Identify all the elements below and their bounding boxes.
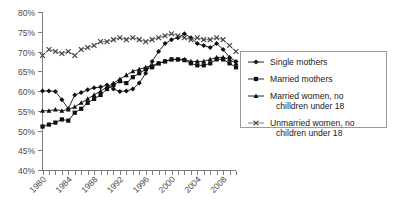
y-tick-label: 80% [18, 8, 35, 18]
marker-diamond [169, 37, 174, 42]
legend-label: Married mothers [270, 74, 333, 84]
x-tick-label: 1996 [131, 174, 152, 195]
x-axis-group: 19801984198819921996200020042008 [27, 171, 236, 195]
marker-diamond [111, 87, 116, 92]
x-tick-label: 2004 [182, 174, 203, 195]
y-tick-label: 50% [18, 127, 35, 137]
data-series-group [40, 31, 239, 128]
marker-triangle [85, 96, 90, 101]
x-tick-label: 1980 [27, 174, 48, 195]
marker-square [86, 101, 90, 105]
y-tick-label: 40% [18, 166, 35, 176]
y-axis-group: 80%75%70%65%60%55%50%45%40% [18, 8, 43, 176]
legend-label: Single mothers [270, 57, 327, 67]
marker-diamond [92, 85, 97, 90]
marker-diamond [72, 92, 77, 97]
marker-square [208, 61, 212, 65]
x-tick-label: 1984 [53, 174, 74, 195]
x-tick-label: 2008 [208, 174, 229, 195]
marker-diamond [143, 71, 148, 76]
marker-square [66, 119, 70, 123]
series-line [43, 34, 237, 56]
marker-diamond [46, 89, 51, 94]
legend-label-line2: chilldren under 18 [276, 101, 345, 111]
marker-square [79, 107, 83, 111]
y-tick-label: 60% [18, 87, 35, 97]
chart-canvas: 80%75%70%65%60%55%50%45%40% 198019841988… [0, 0, 393, 207]
marker-square [137, 71, 141, 75]
legend: Single mothersMarried mothersMarried wom… [241, 52, 387, 139]
marker-triangle [53, 107, 58, 112]
marker-square [254, 77, 258, 81]
x-tick-label: 2000 [156, 174, 177, 195]
marker-square [60, 117, 64, 121]
marker-square [98, 93, 102, 97]
employment-rate-line-chart: 80%75%70%65%60%55%50%45%40% 198019841988… [0, 0, 393, 207]
marker-square [53, 121, 57, 125]
legend-label: Unmarried women, no [270, 118, 355, 128]
marker-square [131, 75, 135, 79]
legend-label: Married women, no [270, 91, 344, 101]
marker-diamond [117, 89, 122, 94]
y-tick-label: 55% [18, 107, 35, 117]
marker-diamond [79, 90, 84, 95]
series-cross [40, 31, 238, 58]
marker-square [40, 124, 44, 128]
marker-square [92, 97, 96, 101]
marker-triangle [111, 81, 116, 86]
x-tick-label: 1992 [105, 174, 126, 195]
marker-triangle [72, 104, 77, 109]
y-tick-labels: 80%75%70%65%60%55%50%45%40% [18, 8, 35, 176]
y-tick-label: 65% [18, 67, 35, 77]
marker-diamond [208, 45, 213, 50]
marker-triangle [79, 100, 84, 105]
marker-diamond [40, 89, 45, 94]
marker-diamond [201, 43, 206, 48]
marker-square [124, 81, 128, 85]
marker-triangle [118, 77, 123, 82]
marker-triangle [98, 88, 103, 93]
y-tick-label: 75% [18, 28, 35, 38]
marker-triangle [124, 73, 129, 78]
marker-triangle [92, 92, 97, 97]
y-tick-label: 70% [18, 48, 35, 58]
marker-square [73, 111, 77, 115]
x-tick-labels: 19801984198819921996200020042008 [27, 174, 228, 195]
x-tick-label: 1988 [79, 174, 100, 195]
marker-diamond [124, 89, 129, 94]
y-tick-label: 45% [18, 146, 35, 156]
marker-square [234, 65, 238, 69]
x-tick-marks [44, 171, 237, 176]
legend-label-line2: children under 18 [276, 128, 343, 138]
marker-square [227, 61, 231, 65]
marker-square [47, 122, 51, 126]
marker-diamond [85, 87, 90, 92]
marker-square [202, 63, 206, 67]
marker-square [195, 63, 199, 67]
